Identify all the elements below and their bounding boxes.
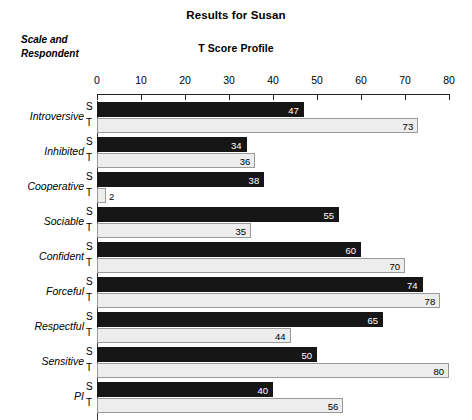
scale-group: SensitiveS50T80 bbox=[0, 346, 472, 381]
bar-s[interactable]: 65 bbox=[97, 312, 383, 327]
page-title: Results for Susan bbox=[0, 9, 472, 21]
respondent-code-s: S bbox=[86, 136, 96, 147]
bar-track: 56 bbox=[97, 398, 449, 413]
scale-label: PI bbox=[0, 390, 84, 402]
x-tick-mark bbox=[273, 94, 274, 100]
bar-value-label: 70 bbox=[389, 260, 400, 273]
x-tick-mark bbox=[185, 94, 186, 100]
bar-track: 40 bbox=[97, 382, 449, 397]
bar-t[interactable]: 44 bbox=[97, 328, 291, 343]
x-tick-mark bbox=[97, 94, 98, 100]
bar-t[interactable]: 35 bbox=[97, 223, 251, 238]
corner-header-line2: Respondent bbox=[21, 47, 121, 61]
scale-group: CooperativeS38T2 bbox=[0, 171, 472, 206]
x-tick-mark bbox=[317, 94, 318, 100]
x-tick-label: 50 bbox=[311, 74, 323, 86]
bar-value-label: 56 bbox=[328, 400, 339, 413]
x-tick-mark bbox=[449, 94, 450, 100]
x-tick-mark bbox=[361, 94, 362, 100]
bar-track: 34 bbox=[97, 137, 449, 152]
bar-s[interactable]: 50 bbox=[97, 347, 317, 362]
scale-label: Confident bbox=[0, 250, 84, 262]
respondent-code-t: T bbox=[86, 117, 96, 128]
respondent-code-t: T bbox=[86, 257, 96, 268]
scale-label: Sociable bbox=[0, 215, 84, 227]
bar-s[interactable]: 40 bbox=[97, 382, 273, 397]
x-tick-mark bbox=[229, 94, 230, 100]
bar-value-label: 60 bbox=[345, 244, 356, 257]
bar-t[interactable]: 70 bbox=[97, 258, 405, 273]
corner-header-line1: Scale and bbox=[21, 33, 121, 47]
bar-track: 55 bbox=[97, 207, 449, 222]
x-tick-mark bbox=[141, 94, 142, 100]
respondent-code-t: T bbox=[86, 222, 96, 233]
bar-t[interactable]: 73 bbox=[97, 118, 418, 133]
respondent-code-t: T bbox=[86, 362, 96, 373]
t-score-profile-chart: Results for Susan T Score Profile Scale … bbox=[0, 0, 472, 420]
bar-s[interactable]: 60 bbox=[97, 242, 361, 257]
bar-value-label: 50 bbox=[301, 349, 312, 362]
respondent-code-t: T bbox=[86, 292, 96, 303]
bar-value-label: 78 bbox=[425, 295, 436, 308]
x-tick-label: 10 bbox=[135, 74, 147, 86]
bar-t[interactable]: 80 bbox=[97, 363, 449, 378]
bar-value-label: 40 bbox=[257, 384, 268, 397]
bar-value-label: 36 bbox=[240, 155, 251, 168]
bar-value-label: 35 bbox=[235, 225, 246, 238]
bar-s[interactable]: 55 bbox=[97, 207, 339, 222]
x-tick-mark bbox=[405, 94, 406, 100]
bar-track: 74 bbox=[97, 277, 449, 292]
respondent-code-t: T bbox=[86, 397, 96, 408]
respondent-code-s: S bbox=[86, 206, 96, 217]
bar-track: 80 bbox=[97, 363, 449, 378]
bar-track: 35 bbox=[97, 223, 449, 238]
bar-s[interactable]: 38 bbox=[97, 172, 264, 187]
scale-group: SociableS55T35 bbox=[0, 206, 472, 241]
bar-track: 65 bbox=[97, 312, 449, 327]
bar-t[interactable]: 36 bbox=[97, 153, 255, 168]
bar-value-label: 44 bbox=[275, 330, 286, 343]
bar-value-label: 38 bbox=[249, 174, 260, 187]
respondent-code-t: T bbox=[86, 187, 96, 198]
plot-area: IntroversiveS47T73InhibitedS34T36Coopera… bbox=[0, 101, 472, 420]
bar-value-label: 2 bbox=[109, 190, 114, 203]
bar-track: 2 bbox=[97, 188, 449, 203]
scale-label: Sensitive bbox=[0, 355, 84, 367]
bar-t[interactable]: 56 bbox=[97, 398, 343, 413]
bar-t[interactable]: 78 bbox=[97, 293, 440, 308]
scale-label: Inhibited bbox=[0, 145, 84, 157]
bar-track: 38 bbox=[97, 172, 449, 187]
scale-label: Respectful bbox=[0, 320, 84, 332]
bar-track: 44 bbox=[97, 328, 449, 343]
bar-t[interactable]: 2 bbox=[97, 188, 106, 203]
respondent-code-s: S bbox=[86, 101, 96, 112]
scale-label: Forceful bbox=[0, 285, 84, 297]
bar-track: 36 bbox=[97, 153, 449, 168]
scale-label: Cooperative bbox=[0, 180, 84, 192]
axis-corner-header: Scale and Respondent bbox=[21, 33, 121, 60]
bar-track: 60 bbox=[97, 242, 449, 257]
x-tick-label: 20 bbox=[179, 74, 191, 86]
bar-s[interactable]: 47 bbox=[97, 102, 304, 117]
scale-group: IntroversiveS47T73 bbox=[0, 101, 472, 136]
x-tick-label: 0 bbox=[94, 74, 100, 86]
bar-value-label: 34 bbox=[231, 139, 242, 152]
bar-value-label: 55 bbox=[323, 209, 334, 222]
bar-value-label: 80 bbox=[433, 365, 444, 378]
bar-value-label: 47 bbox=[288, 104, 299, 117]
x-axis: 01020304050607080 bbox=[97, 74, 449, 102]
bar-s[interactable]: 34 bbox=[97, 137, 247, 152]
respondent-code-s: S bbox=[86, 276, 96, 287]
scale-group: ForcefulS74T78 bbox=[0, 276, 472, 311]
bar-track: 78 bbox=[97, 293, 449, 308]
bar-track: 70 bbox=[97, 258, 449, 273]
bar-s[interactable]: 74 bbox=[97, 277, 423, 292]
bar-value-label: 74 bbox=[407, 279, 418, 292]
x-tick-label: 30 bbox=[223, 74, 235, 86]
x-tick-label: 70 bbox=[399, 74, 411, 86]
scale-group: PIS40T56 bbox=[0, 381, 472, 416]
scale-group: ConfidentS60T70 bbox=[0, 241, 472, 276]
respondent-code-s: S bbox=[86, 346, 96, 357]
bar-value-label: 65 bbox=[367, 314, 378, 327]
bar-value-label: 73 bbox=[403, 120, 414, 133]
